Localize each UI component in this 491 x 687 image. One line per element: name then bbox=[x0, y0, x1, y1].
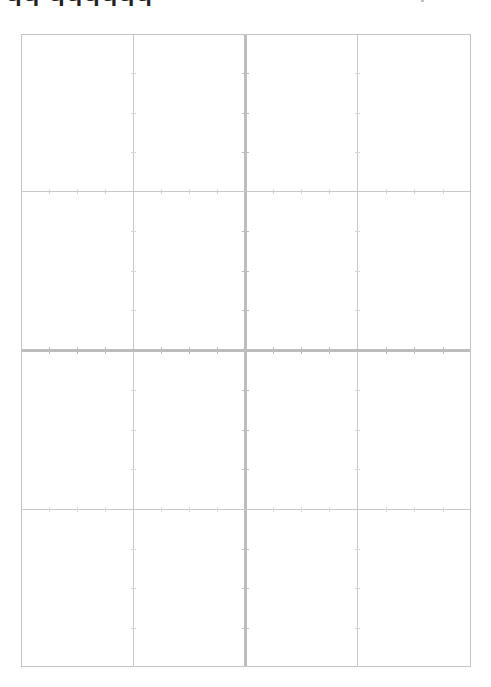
tick-mark bbox=[242, 231, 249, 232]
tick-mark bbox=[242, 390, 249, 391]
tick-mark bbox=[242, 430, 249, 431]
tick-mark bbox=[355, 390, 360, 391]
tick-mark bbox=[131, 310, 136, 311]
tick-mark bbox=[131, 271, 136, 272]
tick-mark bbox=[131, 588, 136, 589]
tick-mark bbox=[355, 628, 360, 629]
tick-mark bbox=[131, 549, 136, 550]
tick-mark bbox=[131, 390, 136, 391]
tick-mark bbox=[217, 189, 218, 194]
tick-mark bbox=[355, 73, 360, 74]
tick-mark bbox=[105, 189, 106, 194]
tick-mark bbox=[355, 430, 360, 431]
tick-mark bbox=[355, 152, 360, 153]
tick-mark bbox=[242, 549, 249, 550]
tick-mark bbox=[273, 189, 274, 194]
tick-mark bbox=[355, 271, 360, 272]
tick-mark bbox=[242, 310, 249, 311]
tick-mark bbox=[443, 347, 444, 354]
tick-mark bbox=[189, 189, 190, 194]
tick-mark bbox=[49, 189, 50, 194]
tick-mark bbox=[131, 231, 136, 232]
tick-mark bbox=[329, 507, 330, 512]
tick-mark bbox=[49, 507, 50, 512]
tick-mark bbox=[131, 73, 136, 74]
tick-mark bbox=[105, 507, 106, 512]
tick-mark bbox=[161, 347, 162, 354]
tick-mark bbox=[355, 231, 360, 232]
tick-mark bbox=[105, 347, 106, 354]
tick-mark bbox=[189, 347, 190, 354]
tick-mark bbox=[273, 507, 274, 512]
tick-mark bbox=[242, 113, 249, 114]
tick-mark bbox=[242, 152, 249, 153]
center-horizontal-axis bbox=[22, 349, 470, 352]
tick-mark bbox=[242, 73, 249, 74]
tick-mark bbox=[414, 347, 415, 354]
tick-mark bbox=[242, 628, 249, 629]
tick-mark bbox=[131, 430, 136, 431]
tick-mark bbox=[414, 189, 415, 194]
tick-mark bbox=[329, 189, 330, 194]
tick-mark bbox=[131, 152, 136, 153]
clipped-header-text: ЧЧ ЧЧЧЧЧЧ Ч bbox=[0, 0, 491, 6]
tick-mark bbox=[242, 588, 249, 589]
tick-mark bbox=[217, 507, 218, 512]
tick-mark bbox=[355, 549, 360, 550]
horizontal-gridline bbox=[22, 191, 470, 192]
tick-mark bbox=[414, 507, 415, 512]
clipped-header-left: ЧЧ ЧЧЧЧЧЧ bbox=[6, 0, 154, 6]
tick-mark bbox=[242, 469, 249, 470]
tick-mark bbox=[355, 310, 360, 311]
tick-mark bbox=[242, 271, 249, 272]
grid-sheet bbox=[21, 34, 471, 667]
tick-mark bbox=[131, 628, 136, 629]
tick-mark bbox=[161, 189, 162, 194]
clipped-header-right: Ч bbox=[412, 0, 427, 6]
tick-mark bbox=[386, 507, 387, 512]
tick-mark bbox=[443, 189, 444, 194]
tick-mark bbox=[131, 469, 136, 470]
horizontal-gridline bbox=[22, 509, 470, 510]
tick-mark bbox=[386, 189, 387, 194]
tick-mark bbox=[189, 507, 190, 512]
tick-mark bbox=[49, 347, 50, 354]
tick-mark bbox=[329, 347, 330, 354]
tick-mark bbox=[77, 347, 78, 354]
tick-mark bbox=[77, 189, 78, 194]
tick-mark bbox=[301, 347, 302, 354]
tick-mark bbox=[355, 588, 360, 589]
tick-mark bbox=[386, 347, 387, 354]
tick-mark bbox=[301, 189, 302, 194]
tick-mark bbox=[355, 469, 360, 470]
tick-mark bbox=[273, 347, 274, 354]
tick-mark bbox=[161, 507, 162, 512]
tick-mark bbox=[443, 507, 444, 512]
tick-mark bbox=[301, 507, 302, 512]
tick-mark bbox=[355, 113, 360, 114]
tick-mark bbox=[217, 347, 218, 354]
tick-mark bbox=[131, 113, 136, 114]
tick-mark bbox=[77, 507, 78, 512]
